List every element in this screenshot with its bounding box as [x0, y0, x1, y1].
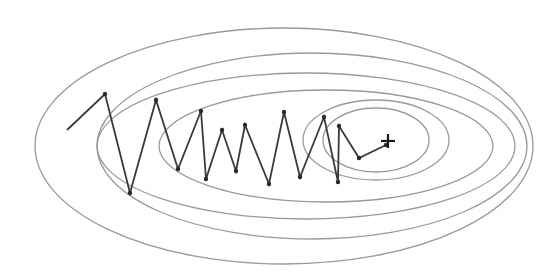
contour-ellipse-5	[303, 100, 449, 180]
step-point-icon	[154, 98, 158, 102]
step-point-icon	[322, 115, 326, 119]
step-point-icon	[199, 109, 203, 113]
contour-ellipse-4	[159, 90, 493, 202]
step-point-icon	[267, 182, 271, 186]
contour-ellipse-1	[35, 28, 533, 264]
step-point-icon	[220, 128, 224, 132]
step-point-icon	[357, 156, 361, 160]
step-point-icon	[128, 191, 132, 195]
step-point-icon	[204, 177, 208, 181]
gradient-descent-plot	[0, 0, 560, 280]
step-markers	[103, 92, 388, 195]
step-point-icon	[103, 92, 107, 96]
step-point-icon	[337, 124, 341, 128]
step-point-icon	[282, 110, 286, 114]
step-point-icon	[234, 169, 238, 173]
step-point-icon	[298, 175, 302, 179]
contour-lines	[35, 28, 533, 264]
step-point-icon	[243, 123, 247, 127]
contour-diagram	[0, 0, 560, 280]
step-point-icon	[336, 180, 340, 184]
contour-ellipse-3	[97, 73, 515, 219]
step-point-icon	[176, 167, 180, 171]
